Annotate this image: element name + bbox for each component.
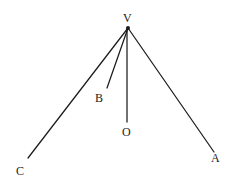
ray-v-to-c	[28, 28, 128, 158]
point-label-c: C	[16, 165, 24, 177]
geometry-figure: V B O C A	[0, 0, 239, 187]
vertex-point-v	[126, 26, 130, 30]
ray-v-to-b	[107, 28, 128, 88]
point-label-a: A	[211, 152, 220, 164]
figure-canvas	[0, 0, 239, 187]
point-label-v: V	[123, 12, 132, 24]
point-label-o: O	[122, 126, 131, 138]
ray-v-to-a	[128, 28, 214, 152]
point-label-b: B	[95, 92, 103, 104]
